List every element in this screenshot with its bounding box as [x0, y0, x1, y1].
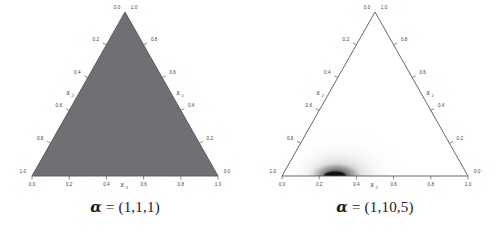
caption-left-alpha: α — [90, 198, 102, 216]
ternary-plot-right: 0.0 1.0 0.0 0.2 0.4 0.6 0.8 1.0 0.2 0.4 … — [250, 0, 500, 200]
axis-label-x1: x 1 — [425, 89, 433, 98]
tick-corner-left: 1.0 — [20, 169, 27, 174]
axis-label-x2: x 2 — [65, 89, 74, 98]
ternary-plot-left: 0.0 1.0 0.0 0.2 0.4 0.6 0.8 1.0 0.2 0.4 … — [0, 0, 250, 200]
tick-corner-right: 0.0 — [474, 169, 481, 174]
tick-apex-left: 0.0 — [364, 5, 371, 10]
tick-apex-left: 0.0 — [114, 5, 121, 10]
tick-right-2: 0.4 — [438, 103, 445, 108]
caption-right-eq: = (1,10,5) — [348, 199, 414, 215]
svg-text:3: 3 — [375, 185, 378, 190]
axis-label-x1: x 1 — [175, 89, 183, 98]
svg-text:x: x — [119, 181, 124, 189]
tick-right-0: 0.8 — [401, 37, 408, 42]
tick-corner-left: 1.0 — [270, 169, 277, 174]
bottom-tickmarks — [282, 176, 468, 180]
tick-bottom-4: 0.8 — [178, 182, 185, 187]
tick-left-3: 0.8 — [287, 136, 294, 141]
tick-bottom-1: 0.2 — [66, 182, 73, 187]
caption-right-alpha: α — [336, 198, 348, 216]
bottom-tickmarks — [32, 176, 218, 180]
svg-text:2: 2 — [71, 93, 74, 98]
tick-corner-right: 0.0 — [224, 169, 231, 174]
svg-text:x: x — [65, 89, 70, 97]
tick-bottom-0: 0.0 — [29, 182, 36, 187]
caption-right: α = (1,10,5) — [250, 198, 500, 216]
axis-label-x3: x 3 — [369, 181, 378, 190]
svg-text:x: x — [315, 89, 320, 97]
panel-left: 0.0 1.0 0.0 0.2 0.4 0.6 0.8 1.0 0.2 0.4 … — [0, 0, 250, 232]
tick-left-2: 0.6 — [306, 103, 313, 108]
tick-right-2: 0.4 — [188, 103, 195, 108]
tick-right-3: 0.2 — [207, 136, 214, 141]
tick-left-2: 0.6 — [56, 103, 63, 108]
tick-bottom-4: 0.8 — [428, 182, 435, 187]
dirichlet-figure: 0.0 1.0 0.0 0.2 0.4 0.6 0.8 1.0 0.2 0.4 … — [0, 0, 500, 232]
tick-bottom-5: 1.0 — [215, 182, 222, 187]
tick-apex-right: 1.0 — [381, 5, 388, 10]
tick-bottom-5: 1.0 — [465, 182, 472, 187]
tick-bottom-0: 0.0 — [279, 182, 286, 187]
tick-right-1: 0.6 — [170, 70, 177, 75]
svg-text:x: x — [425, 89, 430, 97]
axis-label-x2: x 2 — [315, 89, 324, 98]
tick-left-0: 0.2 — [93, 37, 100, 42]
svg-text:x: x — [369, 181, 374, 189]
svg-text:2: 2 — [321, 93, 324, 98]
caption-left: α = (1,1,1) — [0, 198, 250, 216]
svg-text:1: 1 — [431, 93, 433, 98]
tick-bottom-2: 0.4 — [353, 182, 360, 187]
density-texture — [32, 12, 218, 176]
tick-left-1: 0.4 — [324, 70, 331, 75]
tick-bottom-1: 0.2 — [316, 182, 323, 187]
tick-right-3: 0.2 — [457, 136, 464, 141]
caption-left-eq: = (1,1,1) — [102, 199, 160, 215]
tick-bottom-2: 0.4 — [103, 182, 110, 187]
tick-bottom-3: 0.6 — [390, 182, 397, 187]
axis-label-x3: x 3 — [119, 181, 128, 190]
tick-bottom-3: 0.6 — [140, 182, 147, 187]
tick-right-1: 0.6 — [420, 70, 427, 75]
panel-right: 0.0 1.0 0.0 0.2 0.4 0.6 0.8 1.0 0.2 0.4 … — [250, 0, 500, 232]
tick-left-1: 0.4 — [74, 70, 81, 75]
svg-text:3: 3 — [125, 185, 128, 190]
tick-apex-right: 1.0 — [131, 5, 138, 10]
svg-text:1: 1 — [181, 93, 183, 98]
svg-text:x: x — [175, 89, 180, 97]
tick-right-0: 0.8 — [151, 37, 158, 42]
tick-left-3: 0.8 — [37, 136, 44, 141]
tick-left-0: 0.2 — [343, 37, 350, 42]
